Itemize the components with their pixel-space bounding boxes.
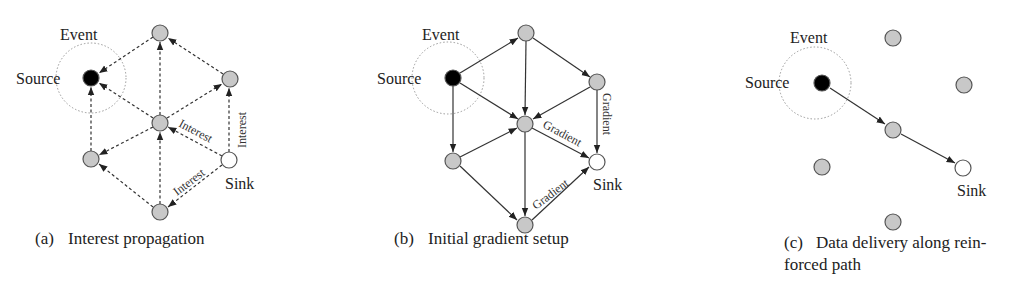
panel-b-initial-gradient-setup: Event Source Sink Gradient Gradient Grad… xyxy=(377,25,622,248)
node-right-top xyxy=(589,74,605,90)
node-left-bottom xyxy=(445,153,461,169)
node-source xyxy=(814,75,830,91)
caption-text: Initial gradient setup xyxy=(428,229,569,248)
edge-top-to-righttop xyxy=(533,38,590,77)
edge-label-interest: Interest xyxy=(235,111,249,148)
caption-tag: (b) xyxy=(394,229,414,248)
edge-righttop-to-center xyxy=(533,87,590,119)
caption-tag: (a) xyxy=(35,229,54,248)
source-label: Source xyxy=(16,70,60,87)
node-top xyxy=(518,25,534,41)
node-sink xyxy=(589,154,605,170)
nodes xyxy=(814,30,972,230)
node-center xyxy=(885,122,901,138)
panel-c-data-delivery: Event Source Sink (c) Data delivery alon… xyxy=(745,29,987,274)
edge-leftbottom-to-bottom xyxy=(460,166,517,220)
node-left-bottom xyxy=(83,151,99,167)
edge-source-to-top xyxy=(460,38,518,73)
edge-top-to-center xyxy=(525,41,526,115)
edge-bottom-to-leftbottom xyxy=(99,164,153,207)
event-label: Event xyxy=(422,26,460,43)
edge-center-to-source xyxy=(99,83,153,118)
node-top xyxy=(885,30,901,46)
edge-label-gradient: Gradient xyxy=(529,176,571,213)
caption-text: Interest propagation xyxy=(68,229,205,248)
edge-source-to-center xyxy=(460,83,518,119)
caption-tag: (c) xyxy=(784,233,803,252)
node-source xyxy=(445,70,461,86)
edge-righttop-to-top xyxy=(168,38,223,74)
node-bottom xyxy=(152,204,168,220)
node-bottom xyxy=(885,214,901,230)
edge-center-to-righttop xyxy=(167,84,222,118)
sink-label: Sink xyxy=(225,175,254,192)
edge-label-interest: Interest xyxy=(170,165,208,198)
edge-source-to-center xyxy=(830,88,885,124)
node-center xyxy=(517,116,533,132)
event-label: Event xyxy=(790,29,828,46)
node-left-bottom xyxy=(814,159,830,175)
node-center xyxy=(152,115,168,131)
edge-top-to-source xyxy=(99,37,153,73)
node-top xyxy=(152,25,168,41)
event-label: Event xyxy=(60,26,98,43)
caption-text-line2: forced path xyxy=(784,255,861,274)
node-sink xyxy=(955,160,971,176)
panel-a-interest-propagation: Event Source Sink Interest Interest Inte… xyxy=(16,25,254,248)
node-source xyxy=(83,70,99,86)
sink-label: Sink xyxy=(593,176,622,193)
node-right-top xyxy=(956,77,972,93)
edge-label-gradient: Gradient xyxy=(600,93,614,136)
source-label: Source xyxy=(745,74,789,91)
node-right-top xyxy=(222,71,238,87)
node-sink xyxy=(221,152,237,168)
diffusion-figure: Event Source Sink Interest Interest Inte… xyxy=(0,0,1012,305)
edge-center-to-sink xyxy=(901,134,955,163)
edge-leftbottom-to-center xyxy=(460,128,517,157)
sink-label: Sink xyxy=(957,182,986,199)
source-label: Source xyxy=(377,70,421,87)
edge-center-to-leftbottom xyxy=(99,127,153,155)
caption-text-line1: Data delivery along rein- xyxy=(816,233,987,252)
